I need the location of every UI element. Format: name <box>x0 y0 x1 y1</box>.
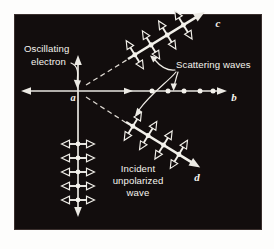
oscillating-electron-line1: Oscillating <box>24 43 69 54</box>
figure-root: b <box>0 0 274 249</box>
ray-d-label: d <box>194 171 200 183</box>
incident-wave-line2: unpolarized <box>113 175 164 186</box>
scattering-waves-label: Scattering waves <box>176 59 251 70</box>
scattering-diagram: b <box>0 0 274 249</box>
incident-wave-line1: Incident <box>121 163 156 174</box>
ray-b-label: b <box>231 91 237 103</box>
scatter-center-label-a: a <box>70 92 75 103</box>
incident-wave-line3: wave <box>126 187 150 198</box>
ray-c-label: c <box>216 17 221 29</box>
oscillating-electron-line2: electron <box>31 56 66 67</box>
